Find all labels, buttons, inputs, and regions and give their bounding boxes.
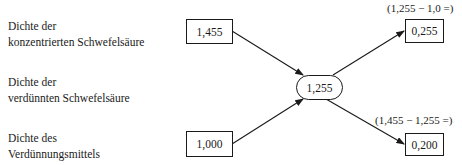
arrow-target-to-parts-conc [333,31,404,75]
parts-conc-box: 0,255 [405,19,444,43]
arrow-conc-to-target [232,31,303,75]
formula-top: (1,255 − 1,0 =) [387,2,453,14]
formula-bottom: (1,455 − 1,255 =) [375,114,452,126]
parts-diluent-box: 0,200 [405,133,444,156]
conc-density-box: 1,455 [186,19,233,44]
diluent-density-box: 1,000 [186,131,233,157]
arrow-diluent-to-target [232,99,303,144]
target-density-pill: 1,255 [296,75,343,100]
